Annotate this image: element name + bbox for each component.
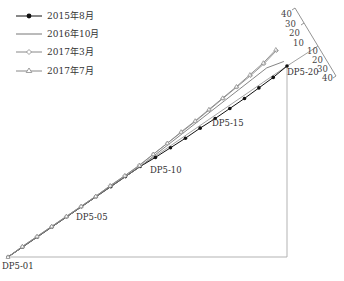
series-layer	[6, 47, 289, 259]
legend: 2015年8月 2016年10月 2017年3月 2017年7月	[16, 10, 99, 76]
open-triangle-marker-icon	[35, 234, 39, 238]
point-label-dp5-10: DP5-10	[150, 165, 182, 175]
open-triangle-marker-icon	[64, 214, 68, 218]
open-triangle-marker-icon	[79, 204, 83, 208]
legend-item-2017-03: 2017年3月	[16, 46, 94, 57]
series-2017-03	[6, 49, 278, 259]
open-triangle-marker-icon	[108, 184, 112, 188]
filled-circle-marker-icon	[243, 97, 247, 101]
legend-label: 2017年3月	[47, 46, 94, 57]
filled-circle-marker-icon	[228, 107, 232, 111]
point-label-dp5-05: DP5-05	[76, 212, 108, 222]
open-triangle-marker-icon	[20, 244, 24, 248]
open-triangle-marker-icon	[123, 173, 127, 177]
open-triangle-marker-icon	[50, 224, 54, 228]
legend-item-2017-07: 2017年7月	[16, 65, 94, 76]
filled-circle-marker-icon	[271, 76, 275, 80]
filled-circle-marker-icon	[198, 126, 202, 130]
legend-label: 2015年8月	[47, 10, 94, 21]
scale-tick-label: 10	[293, 38, 304, 48]
displacement-profile-figure: 2015年8月 2016年10月 2017年3月 2017年7月	[0, 0, 344, 281]
point-label-end: DP5-20	[287, 67, 319, 77]
series-2017-07	[6, 47, 278, 258]
open-triangle-marker-icon	[94, 194, 98, 198]
open-triangle-marker-icon	[6, 255, 10, 259]
scale-tick-label: 20	[289, 28, 300, 38]
scale-tick-label: 40	[322, 73, 333, 83]
legend-label: 2017年7月	[47, 65, 94, 76]
open-triangle-marker-icon	[274, 47, 278, 51]
legend-item-2016-10: 2016年10月	[16, 28, 99, 39]
filled-circle-marker-icon	[169, 146, 173, 150]
legend-label: 2016年10月	[47, 28, 99, 39]
scale-tick-label: 40	[281, 9, 292, 19]
filled-circle-marker-icon	[27, 14, 32, 19]
filled-circle-marker-icon	[257, 86, 261, 90]
open-triangle-marker-icon	[26, 68, 32, 73]
point-label-start: DP5-01	[2, 261, 34, 271]
open-diamond-marker-icon	[27, 50, 32, 55]
point-label-dp5-15: DP5-15	[212, 118, 244, 128]
legend-item-2015-08: 2015年8月	[16, 10, 94, 21]
filled-circle-marker-icon	[184, 136, 188, 140]
